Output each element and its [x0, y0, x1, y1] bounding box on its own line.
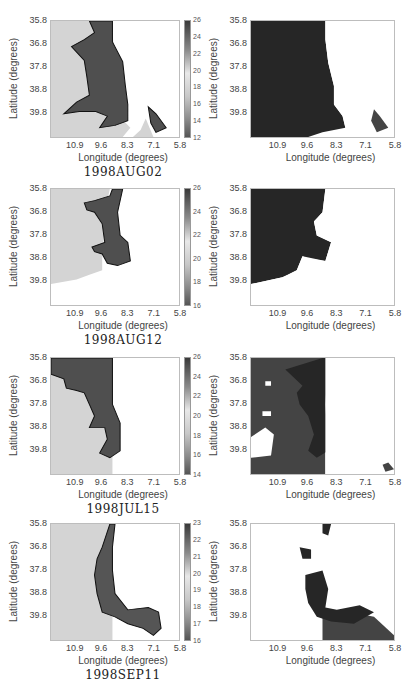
x-tick-label: 9.6	[89, 308, 113, 318]
colorbar-tick-label: 14	[193, 117, 201, 124]
y-axis-label: Latitude (degrees)	[208, 361, 219, 471]
x-tick-label: 10.9	[63, 140, 87, 150]
y-tick-label: 36.8	[223, 38, 247, 48]
x-tick-label: 7.1	[354, 140, 378, 150]
colorbar-tick-label: 22	[193, 536, 201, 543]
y-tick-label: 38.8	[223, 587, 247, 597]
y-tick-label: 35.8	[23, 518, 47, 528]
colorbar-tick-label: 21	[193, 553, 201, 560]
x-axis-label: Longitude (degrees)	[53, 489, 193, 500]
colorbar-tick-label: 18	[193, 83, 201, 90]
colorbar-tick-label: 23	[193, 519, 201, 526]
y-tick-label: 37.8	[23, 398, 47, 408]
segmentation-map	[251, 189, 394, 305]
x-axis-label: Longitude (degrees)	[261, 489, 401, 500]
sst-field	[51, 524, 179, 640]
y-tick-label: 38.8	[23, 84, 47, 94]
y-tick-label: 39.8	[23, 444, 47, 454]
colorbar	[184, 523, 191, 641]
x-axis-label: Longitude (degrees)	[261, 320, 401, 331]
y-tick-label: 36.8	[23, 375, 47, 385]
y-tick-label: 38.8	[23, 587, 47, 597]
y-tick-label: 38.8	[23, 252, 47, 262]
x-tick-label: 9.6	[89, 643, 113, 653]
x-tick-label: 9.6	[295, 643, 319, 653]
y-tick-label: 39.8	[223, 610, 247, 620]
colorbar-tick-label: 16	[193, 451, 201, 458]
x-tick-label: 10.9	[266, 140, 290, 150]
x-tick-label: 5.8	[383, 643, 407, 653]
x-tick-label: 7.1	[142, 643, 166, 653]
y-tick-label: 39.8	[23, 107, 47, 117]
y-tick-label: 36.8	[23, 38, 47, 48]
map-axes-right-row2	[250, 188, 395, 306]
y-tick-label: 36.8	[23, 541, 47, 551]
colorbar-tick-label: 18	[193, 432, 201, 439]
sst-field	[51, 189, 179, 305]
y-tick-label: 37.8	[223, 398, 247, 408]
x-tick-label: 8.3	[324, 308, 348, 318]
y-tick-label: 36.8	[223, 206, 247, 216]
x-tick-label: 5.8	[168, 643, 192, 653]
x-tick-label: 5.8	[383, 140, 407, 150]
x-tick-label: 9.6	[89, 140, 113, 150]
x-axis-label: Longitude (degrees)	[53, 320, 193, 331]
y-tick-label: 38.8	[223, 421, 247, 431]
x-tick-label: 5.8	[383, 477, 407, 487]
x-tick-label: 9.6	[295, 477, 319, 487]
panel-date-title: 1998SEP11	[53, 668, 193, 682]
y-tick-label: 35.8	[23, 15, 47, 25]
segmentation-map	[251, 524, 394, 640]
y-tick-label: 39.8	[23, 275, 47, 285]
y-tick-label: 37.8	[223, 61, 247, 71]
x-tick-label: 8.3	[115, 308, 139, 318]
colorbar-tick-label: 22	[193, 50, 201, 57]
y-tick-label: 37.8	[223, 229, 247, 239]
x-tick-label: 8.3	[115, 477, 139, 487]
x-tick-label: 8.3	[324, 140, 348, 150]
x-tick-label: 5.8	[168, 140, 192, 150]
colorbar-tick-label: 20	[193, 412, 201, 419]
y-tick-label: 38.8	[223, 84, 247, 94]
x-tick-label: 10.9	[266, 308, 290, 318]
y-axis-label: Latitude (degrees)	[208, 24, 219, 134]
colorbar-tick-label: 26	[193, 353, 201, 360]
y-tick-label: 36.8	[23, 206, 47, 216]
colorbar-tick-label: 20	[193, 570, 201, 577]
y-tick-label: 39.8	[223, 444, 247, 454]
x-tick-label: 10.9	[63, 643, 87, 653]
y-tick-label: 37.8	[23, 564, 47, 574]
x-tick-label: 7.1	[142, 140, 166, 150]
colorbar-tick-label: 14	[193, 471, 201, 478]
x-tick-label: 9.6	[295, 308, 319, 318]
y-axis-label: Latitude (degrees)	[208, 527, 219, 637]
colorbar-tick-label: 24	[193, 373, 201, 380]
x-tick-label: 7.1	[354, 308, 378, 318]
map-axes-right-row1	[250, 20, 395, 138]
y-tick-label: 35.8	[223, 518, 247, 528]
y-axis-label: Latitude (degrees)	[208, 192, 219, 302]
x-tick-label: 7.1	[142, 477, 166, 487]
panel-date-title: 1998JUL15	[53, 502, 193, 516]
x-axis-label: Longitude (degrees)	[53, 152, 193, 163]
map-axes-left-row4	[50, 523, 180, 641]
x-tick-label: 7.1	[142, 308, 166, 318]
colorbar-tick-label: 17	[193, 620, 201, 627]
y-tick-label: 37.8	[223, 564, 247, 574]
y-tick-label: 38.8	[223, 252, 247, 262]
y-axis-label: Latitude (degrees)	[8, 527, 19, 637]
colorbar-tick-label: 26	[193, 184, 201, 191]
y-tick-label: 35.8	[23, 352, 47, 362]
y-tick-label: 36.8	[223, 541, 247, 551]
x-tick-label: 8.3	[115, 140, 139, 150]
x-tick-label: 10.9	[266, 477, 290, 487]
x-tick-label: 10.9	[63, 477, 87, 487]
colorbar-tick-label: 24	[193, 208, 201, 215]
x-axis-label: Longitude (degrees)	[261, 152, 401, 163]
y-tick-label: 35.8	[23, 183, 47, 193]
x-tick-label: 10.9	[63, 308, 87, 318]
colorbar-tick-label: 19	[193, 586, 201, 593]
colorbar-tick-label: 18	[193, 603, 201, 610]
colorbar-tick-label: 18	[193, 278, 201, 285]
x-tick-label: 9.6	[89, 477, 113, 487]
